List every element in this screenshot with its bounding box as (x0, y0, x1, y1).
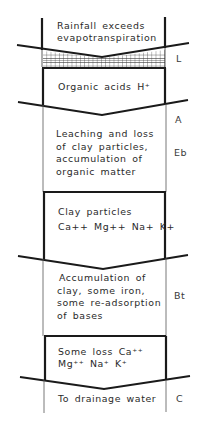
section-some-loss-text: Some loss Ca⁺⁺ Mg⁺⁺ Na⁺ K⁺ (58, 346, 143, 369)
text-line: Rainfall exceeds (57, 20, 157, 32)
horizon-label-L: L (176, 53, 182, 64)
text-line: Leaching and loss (56, 128, 154, 141)
text-line: Accumulation of (57, 272, 161, 285)
text-line: To drainage water (58, 393, 156, 405)
text-line: clay, some iron, (57, 285, 161, 298)
text-line: organic matter (56, 166, 154, 179)
text-line: some re-adsorption (57, 297, 161, 310)
horizon-label-Bt: Bt (174, 290, 185, 301)
horizon-label-C: C (176, 393, 183, 404)
section-drainage-text: To drainage water (58, 393, 156, 405)
section-leaching-text: Leaching and loss of clay particles, acc… (56, 128, 154, 178)
section-accumulation-text: Accumulation of clay, some iron, some re… (57, 272, 161, 322)
text-line: Organic acids H⁺ (58, 81, 150, 93)
text-line: evapotranspiration (57, 32, 157, 44)
soil-profile-diagram: Rainfall exceeds evapotranspiration Orga… (0, 0, 201, 428)
text-line: of bases (57, 310, 161, 323)
section-organic-acids-text: Organic acids H⁺ (58, 81, 150, 93)
text-line: Mg⁺⁺ Na⁺ K⁺ (58, 358, 143, 370)
horizon-label-A: A (175, 114, 182, 125)
text-line: accumulation of (56, 153, 154, 166)
section-clay-particles-text: Clay particles Ca++ Mg++ Na+ K+ (58, 204, 175, 234)
text-line: of clay particles, (56, 141, 154, 154)
text-line: Some loss Ca⁺⁺ (58, 346, 143, 358)
text-line: Ca++ Mg++ Na+ K+ (58, 219, 175, 234)
text-line: Clay particles (58, 204, 175, 219)
section-input-text: Rainfall exceeds evapotranspiration (57, 20, 157, 43)
horizon-label-Eb: Eb (174, 147, 187, 158)
